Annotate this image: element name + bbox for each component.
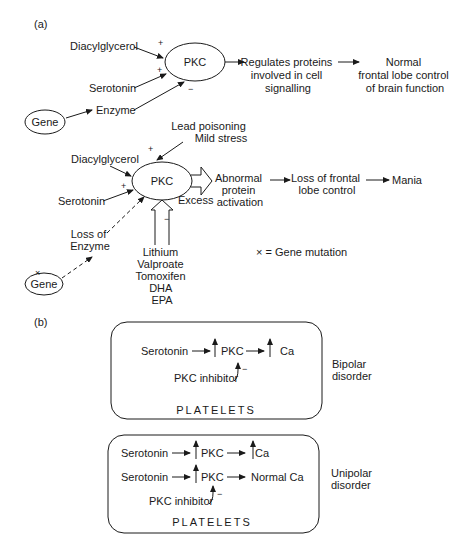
unipolar-disorder-label: Unipolar disorder <box>331 467 375 491</box>
pkc-inhibitor-label: PKC inhibitor <box>174 372 239 384</box>
sign-plus: + <box>148 144 153 154</box>
mania-label: Mania <box>392 174 423 186</box>
pkc-label: PKC <box>151 175 174 187</box>
pkc-label: PKC <box>184 56 207 68</box>
serotonin-label: Serotonin <box>121 447 168 459</box>
diacylglycerol-label: Diacylglycerol <box>71 153 139 165</box>
panel-a-label: (a) <box>34 18 47 30</box>
abnormal-pathway: Lead poisoning Mild stress + PKC Diacylg… <box>25 120 423 306</box>
pkc-inhibitor-label: PKC inhibitor <box>149 495 214 507</box>
platelets-label: PLATELETS <box>176 404 256 416</box>
sign-plus: + <box>158 38 163 48</box>
platelets-label: PLATELETS <box>172 516 252 528</box>
serotonin-label: Serotonin <box>141 345 188 357</box>
serotonin-label: Serotonin <box>89 82 136 94</box>
arrow-gene-loss <box>62 257 92 278</box>
sign-plus: + <box>157 65 162 75</box>
bipolar-disorder-label: Bipolar disorder <box>332 358 372 382</box>
serotonin-label: Serotonin <box>58 195 105 207</box>
loss-frontal-lobe-text: Loss of frontal lobe control <box>291 172 363 196</box>
arrow-gene-enzyme <box>66 110 92 118</box>
arrow-enzyme-pkc <box>134 82 184 110</box>
gene-label: Gene <box>32 116 59 128</box>
diacylglycerol-label: Diacylglycerol <box>70 40 138 52</box>
excess-label: Excess <box>178 194 214 206</box>
gene-mutation-legend: × = Gene mutation <box>256 246 347 258</box>
arrow-dag-pkc <box>134 47 163 58</box>
sign-minus: − <box>188 84 193 94</box>
normal-frontal-lobe-text: Normal frontal lobe control of brain fun… <box>358 56 452 94</box>
arrow-loss-enzyme-pkc <box>107 197 144 233</box>
unipolar-platelets-box: Serotonin PKC Ca Serotonin PKC Normal Ca… <box>108 435 319 533</box>
pkc-label: PKC <box>201 471 224 483</box>
arrow-dag-pkc <box>110 166 131 176</box>
loss-of-enzyme-text: Loss of Enzyme <box>70 228 110 252</box>
serotonin-label: Serotonin <box>121 471 168 483</box>
panel-b-label: (b) <box>34 316 47 328</box>
sign-minus: − <box>164 214 169 224</box>
arrow-serotonin-pkc <box>103 190 133 201</box>
ca-label: Ca <box>255 447 270 459</box>
gene-label: Gene <box>31 278 58 290</box>
pkc-label: PKC <box>201 447 224 459</box>
regulates-proteins-text: Regulates proteins involved in cell sign… <box>241 56 336 94</box>
sign-plus: + <box>121 181 126 191</box>
ca-label: Ca <box>280 345 295 357</box>
enzyme-label: Enzyme <box>96 104 136 116</box>
drug-inhibition-arrow <box>151 200 173 245</box>
excess-hollow-arrow <box>191 167 212 195</box>
sign-minus: − <box>217 489 222 499</box>
bipolar-platelets-box: Serotonin PKC Ca PKC inhibitor − PLATELE… <box>111 322 322 419</box>
lead-poisoning-label: Lead poisoning Mild stress <box>171 120 249 144</box>
normal-ca-label: Normal Ca <box>251 471 304 483</box>
arrow-serotonin-pkc <box>134 74 166 88</box>
pkc-label: PKC <box>221 345 244 357</box>
diagram-canvas: (a) PKC Diacylglycerol + Serotonin + Gen… <box>0 0 468 549</box>
arrow-stress-pkc <box>157 142 183 160</box>
drug-list: Lithium Valproate Tomoxifen DHA EPA <box>135 246 188 306</box>
mutation-x-icon: × <box>35 268 40 278</box>
sign-minus: − <box>242 364 247 374</box>
abnormal-activation-text: Abnormal protein activation <box>215 172 265 208</box>
